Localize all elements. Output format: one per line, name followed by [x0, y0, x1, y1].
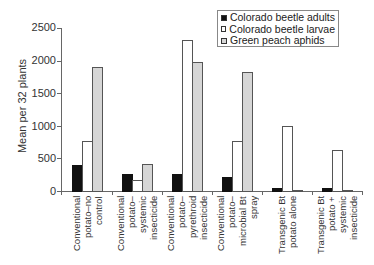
y-tick-mark [57, 61, 61, 62]
legend-label: Green peach aphids [230, 35, 325, 47]
x-tick-mark [61, 191, 62, 195]
x-tick-mark [262, 191, 263, 195]
x-category-label: Transgenic Bt potato alone [276, 196, 298, 260]
x-tick-mark [312, 191, 313, 195]
legend-swatch-icon [221, 38, 227, 44]
x-category-label: Conventional potato–no control [71, 196, 104, 260]
x-category-label: Conventional potato– pyrethroid insectic… [165, 196, 209, 260]
bar-larvae [282, 126, 293, 192]
y-tick-mark [57, 28, 61, 29]
x-tick-mark [212, 191, 213, 195]
x-category-label: Conventional potato– microbial Bt spray [215, 196, 259, 260]
y-tick-label: 1500 [22, 87, 56, 99]
y-tick-mark [57, 126, 61, 127]
bar-larvae [332, 150, 343, 192]
bar-aphids [342, 190, 353, 192]
y-tick-label: 0 [22, 185, 56, 197]
bar-aphids [92, 67, 103, 192]
bar-aphids [192, 62, 203, 192]
y-tick-label: 2000 [22, 54, 56, 66]
x-tick-mark [362, 191, 363, 195]
y-tick-label: 2500 [22, 21, 56, 33]
y-tick-mark [57, 158, 61, 159]
legend-swatch-icon [221, 15, 227, 21]
bar-aphids [142, 164, 153, 192]
x-tick-mark [162, 191, 163, 195]
legend: Colorado beetle adults Colorado beetle l… [217, 10, 339, 47]
legend-label: Colorado beetle adults [230, 12, 335, 24]
legend-item-adults: Colorado beetle adults [221, 12, 335, 24]
bar-aphids [292, 190, 303, 192]
y-axis [61, 28, 62, 192]
legend-item-aphids: Green peach aphids [221, 35, 335, 47]
bar-aphids [242, 72, 253, 192]
legend-swatch-icon [221, 26, 226, 32]
x-tick-mark [112, 191, 113, 195]
y-tick-mark [57, 93, 61, 94]
bar-chart: Mean per 32 plants 0 500 1000 1500 2000 … [0, 0, 374, 265]
x-category-label: Transgenic Bt potato + systemic insectic… [315, 196, 359, 260]
y-tick-label: 500 [22, 152, 56, 164]
y-tick-label: 1000 [22, 120, 56, 132]
x-category-label: Conventional potato– systemic insecticid… [115, 196, 159, 260]
